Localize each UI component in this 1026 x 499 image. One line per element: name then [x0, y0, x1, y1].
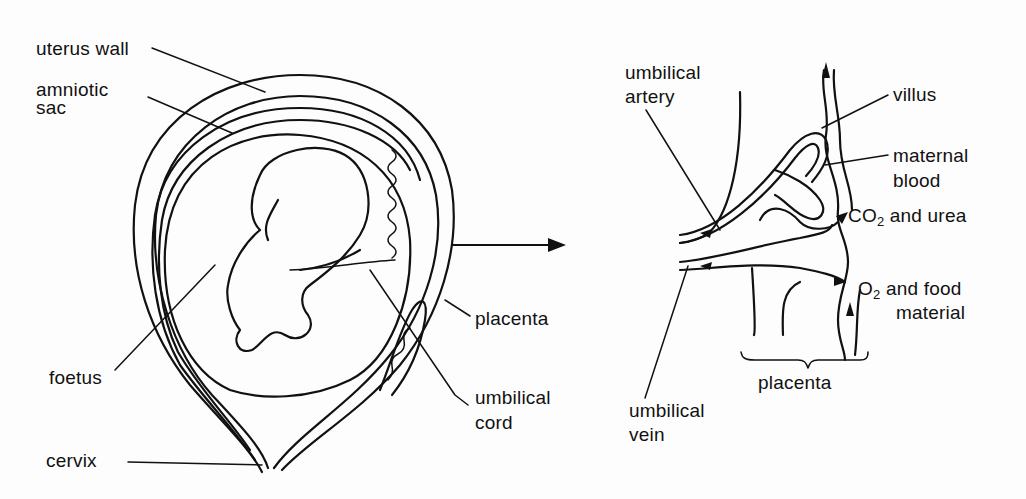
maternal-vessel-3 [855, 290, 860, 355]
label-amniotic-sac-2: sac [36, 97, 66, 118]
label-foetus: foetus [49, 367, 102, 388]
label-o2-food: O2 and food [858, 278, 961, 299]
leader-maternal-blood [825, 155, 888, 165]
label-co2-urea: CO2 and urea [848, 205, 966, 226]
flow-arrow-up-icon-2 [846, 302, 854, 316]
placenta-stem [752, 268, 800, 335]
leader-placenta [445, 300, 470, 316]
label-umbilical-artery-2: artery [625, 86, 675, 107]
label-cervix: cervix [46, 450, 97, 471]
label-umbilical-cord-1: umbilical [475, 387, 551, 408]
label-food-material: material [896, 302, 965, 323]
villus-loop-2 [760, 209, 838, 229]
leader-uterus-wall [152, 48, 265, 92]
leader-umbilical-artery [646, 110, 720, 230]
foetus-limb [266, 200, 360, 270]
leader-villus [822, 95, 888, 128]
leader-amniotic-sac [148, 97, 232, 133]
arrow-right-icon [452, 238, 566, 252]
uterus-drawing [115, 48, 470, 472]
leader-umbilical-vein [645, 266, 688, 398]
diagram-artwork [0, 0, 1026, 499]
umbilical-artery-vessel-2 [680, 144, 819, 243]
umbilical-artery-vessel [680, 133, 828, 235]
placenta-detail-drawing [645, 62, 888, 398]
label-placenta-right: placenta [758, 372, 831, 393]
label-villus: villus [893, 84, 936, 105]
leader-cervix [128, 462, 262, 465]
label-placenta-left: placenta [475, 308, 548, 329]
label-umbilical-vein-1: umbilical [629, 400, 705, 421]
label-umbilical-artery-1: umbilical [625, 62, 701, 83]
placenta-brace [741, 352, 868, 368]
label-uterus-wall: uterus wall [36, 38, 129, 59]
foetus-outline [227, 148, 368, 351]
amniotic-cavity [165, 134, 410, 396]
placenta-diagram: uterus wall amniotic sac foetus cervix p… [0, 0, 1026, 499]
label-maternal-blood-2: blood [893, 170, 941, 191]
umbilical-vein-vessel [680, 225, 832, 262]
label-umbilical-cord-2: cord [475, 412, 513, 433]
label-umbilical-vein-2: vein [629, 424, 665, 445]
label-maternal-blood-1: maternal [893, 145, 969, 166]
